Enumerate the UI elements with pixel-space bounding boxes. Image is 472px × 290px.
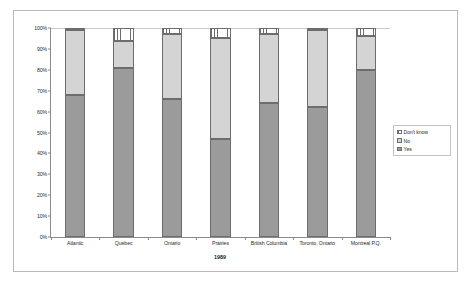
chart-frame: AtlanticQuebecOntarioPrairiesBritish Col… [13,10,458,272]
y-axis-tick-mark [48,195,51,196]
chart-legend: Don't know No Yes [393,125,451,156]
legend-swatch-no-icon [397,138,402,143]
x-axis-tick-label: British Columbia [245,240,293,246]
y-axis-tick-mark [48,132,51,133]
x-axis-tick-label: Quebec [99,240,147,246]
y-axis-tick-mark [48,69,51,70]
bar-group[interactable]: British Columbia [245,28,293,237]
y-axis-tick-mark [48,28,51,29]
x-axis-tick-mark [245,237,246,240]
x-axis-title: 1989 [50,254,390,260]
y-axis-tick-mark [48,48,51,49]
bar-group[interactable]: Prairies [196,28,244,237]
bar-segment-don-t-know[interactable] [65,28,85,30]
legend-swatch-yes-icon [397,147,402,152]
legend-label-yes: Yes [404,146,412,152]
stacked-bar[interactable] [356,28,376,237]
legend-item-dont-know: Don't know [397,129,447,135]
bar-segment-don-t-know[interactable] [210,28,230,38]
stacked-bar[interactable] [65,28,85,237]
bar-group[interactable]: Ontario [148,28,196,237]
x-axis-tick-mark [293,237,294,240]
legend-label-no: No [404,138,410,144]
y-axis-tick-mark [48,174,51,175]
x-axis-tick-label: Ontario [148,240,196,246]
legend-item-no: No [397,138,447,144]
x-axis-tick-label: Toronto, Ontario [293,240,341,246]
bar-segment-don-t-know[interactable] [162,28,182,34]
y-axis-tick-mark [48,111,51,112]
bar-segment-don-t-know[interactable] [113,28,133,41]
bar-group[interactable]: Quebec [99,28,147,237]
stacked-bar[interactable] [259,28,279,237]
y-axis-tick-mark [48,90,51,91]
bar-segment-yes[interactable] [259,103,279,237]
bar-segment-no[interactable] [162,34,182,99]
legend-swatch-dont-know-icon [397,130,402,135]
bar-segment-no[interactable] [210,38,230,138]
y-axis-tick-mark [48,237,51,238]
bar-segment-don-t-know[interactable] [356,28,376,36]
x-axis-tick-mark [148,237,149,240]
bar-segment-no[interactable] [113,41,133,68]
bar-segment-yes[interactable] [113,68,133,237]
stacked-bar[interactable] [113,28,133,237]
bar-segment-yes[interactable] [65,95,85,237]
plot-area: AtlanticQuebecOntarioPrairiesBritish Col… [50,28,390,238]
bar-group[interactable]: Atlantic [51,28,99,237]
bar-segment-don-t-know[interactable] [259,28,279,34]
plot-inner: AtlanticQuebecOntarioPrairiesBritish Col… [51,28,390,237]
x-axis-tick-label: Prairies [196,240,244,246]
bar-segment-yes[interactable] [307,107,327,237]
stacked-bar[interactable] [210,28,230,237]
bar-segment-no[interactable] [65,30,85,95]
bar-segment-no[interactable] [259,34,279,103]
bar-segment-yes[interactable] [356,70,376,237]
legend-item-yes: Yes [397,146,447,152]
x-axis-tick-mark [99,237,100,240]
x-axis-tick-mark [196,237,197,240]
bar-group[interactable]: Toronto, Ontario [293,28,341,237]
stacked-bar[interactable] [162,28,182,237]
y-axis-tick-mark [48,216,51,217]
bar-segment-yes[interactable] [210,139,230,237]
bar-segment-no[interactable] [307,30,327,107]
legend-label-dont-know: Don't know [404,129,429,135]
x-axis-tick-label: Montreal P.Q. [342,240,390,246]
x-axis-tick-mark [342,237,343,240]
x-axis-tick-label: Atlantic [51,240,99,246]
bar-segment-don-t-know[interactable] [307,28,327,30]
x-axis-tick-mark [390,237,391,240]
bar-segment-yes[interactable] [162,99,182,237]
bar-group[interactable]: Montreal P.Q. [342,28,390,237]
y-axis-tick-mark [48,153,51,154]
bar-segment-no[interactable] [356,36,376,69]
stacked-bar[interactable] [307,28,327,237]
x-axis-tick-mark [51,237,52,240]
